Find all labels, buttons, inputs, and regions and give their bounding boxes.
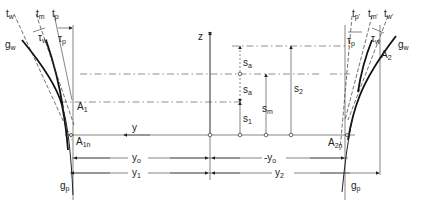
left-gp-label: gp — [60, 180, 70, 193]
sa-bot-label: sa — [243, 84, 252, 96]
sm-label: sm — [262, 103, 273, 115]
left-gw-label: gw — [5, 39, 17, 51]
right-A2-label: A2 — [381, 49, 392, 61]
left-tangent-tw — [14, 14, 72, 140]
right-gw-label: gw — [398, 39, 410, 51]
left-A1-label: A1 — [77, 101, 88, 113]
left-tau-p-label: τp — [58, 33, 66, 46]
left-A1n-label: A1n — [76, 136, 91, 148]
bottom-dimensions: yo -yo y1 y2 — [71, 151, 379, 179]
sm-base-point — [264, 133, 268, 137]
A1n-point — [70, 134, 73, 137]
z-axis-label: z — [198, 31, 203, 42]
sa-top-label: sa — [243, 57, 252, 69]
s1-base-point — [238, 133, 242, 137]
right-tangent-tw — [348, 16, 388, 120]
right-tau-w-label: τw — [371, 33, 381, 45]
s1-label: s1 — [243, 113, 252, 125]
right-gp-label: gp — [351, 180, 361, 193]
pantograph-contact-diagram: z y sa sa s1 sm s2 yo -yo y1 — [0, 0, 425, 207]
reference-lines — [60, 46, 355, 173]
A2n-point — [346, 134, 349, 137]
origin-point — [208, 133, 212, 137]
left-tw-label: tw — [6, 8, 15, 20]
left-tangent-tp — [54, 14, 72, 100]
center-point — [238, 72, 242, 76]
right-A2n-label: A2n — [328, 137, 343, 149]
left-tm-label: tm — [36, 8, 45, 20]
vertical-lines — [73, 25, 380, 200]
left-contact-geometry: tw tm tp τw τp gw A1 A1n gp — [5, 8, 91, 195]
right-contact-curve-gw — [348, 36, 396, 140]
right-tp-label: tp' — [352, 8, 360, 21]
right-tw-label: tw' — [384, 8, 393, 20]
s2-base-point — [289, 133, 293, 137]
right-tm-label: tm' — [368, 8, 378, 20]
s2-label: s2 — [294, 83, 303, 95]
center-dimensions: sa sa s1 sm s2 — [208, 46, 303, 137]
right-contact-geometry: tp' tm' tw' τp τw gw A2 A2n gp — [328, 8, 410, 193]
left-tp-label: tp — [52, 8, 59, 21]
y-axis-label: y — [132, 122, 137, 133]
